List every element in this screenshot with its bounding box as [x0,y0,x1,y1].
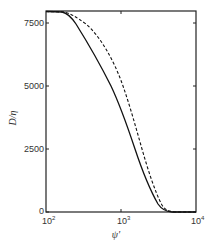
y-axis-label: D/η [7,110,18,126]
x-axis-label: ψ' [112,229,121,240]
chart: 0 2500 5000 7500 D/η 102 103 104 ψ' [0,0,208,246]
y-tick-label: 2500 [24,144,44,154]
y-axis: 0 2500 5000 7500 D/η [7,18,196,216]
y-tick-label: 0 [39,206,44,216]
y-tick-label: 5000 [24,81,44,91]
plot-frame [46,11,196,212]
x-axis: 102 103 104 ψ' [42,11,205,240]
y-tick-label: 7500 [24,18,44,28]
x-tick-label: 102 [42,215,56,226]
solid-curve [46,12,196,213]
dashed-curve [46,12,196,213]
x-tick-label: 104 [191,215,205,226]
x-tick-label: 103 [117,215,131,226]
